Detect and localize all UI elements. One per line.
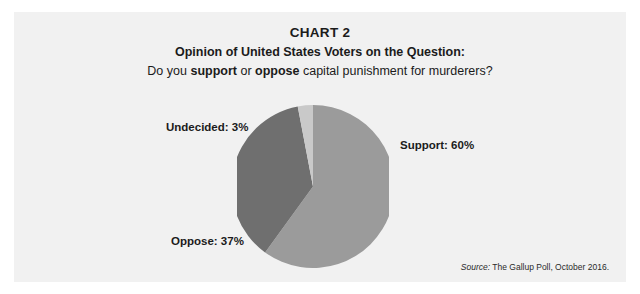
pie-label-oppose: Oppose: 37% [171, 235, 244, 247]
chart-question: Do you support or oppose capital punishm… [14, 62, 626, 80]
pie-label-undecided: Undecided: 3% [166, 121, 248, 133]
source-label: Source: [461, 262, 490, 272]
chart-header: CHART 2 Opinion of United States Voters … [14, 24, 626, 80]
question-suffix: capital punishment for murderers? [299, 64, 492, 78]
chart-panel: CHART 2 Opinion of United States Voters … [14, 12, 626, 282]
pie-label-support: Support: 60% [400, 139, 474, 151]
question-prefix: Do you [147, 64, 190, 78]
chart-subtitle: Opinion of United States Voters on the Q… [14, 43, 626, 61]
chart-number: CHART 2 [14, 24, 626, 42]
question-middle: or [237, 64, 255, 78]
pie-chart-svg [237, 105, 389, 268]
pie-chart [237, 105, 389, 268]
source-text: The Gallup Poll, October 2016. [490, 262, 609, 272]
source-note: Source: The Gallup Poll, October 2016. [254, 262, 609, 272]
chart-figure: CHART 2 Opinion of United States Voters … [0, 0, 640, 294]
question-emphasis-support: support [190, 64, 237, 78]
question-emphasis-oppose: oppose [255, 64, 299, 78]
